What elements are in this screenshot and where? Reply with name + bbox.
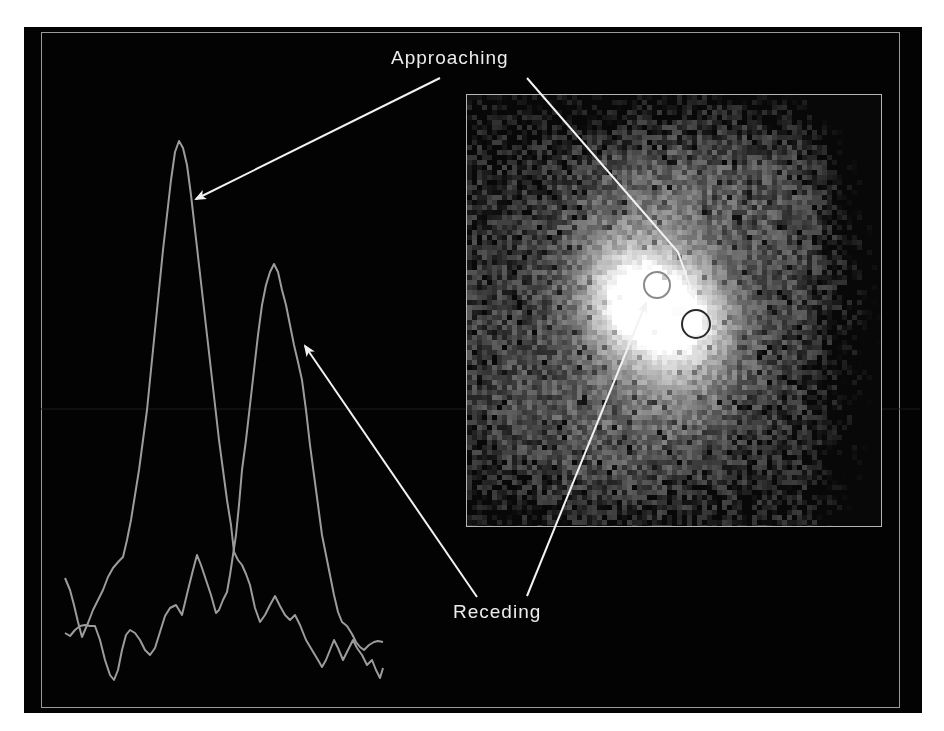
receding-label: Receding bbox=[453, 601, 541, 623]
galaxy-image bbox=[466, 94, 882, 527]
galaxy-image-canvas bbox=[467, 95, 881, 526]
approaching-label: Approaching bbox=[391, 47, 509, 69]
